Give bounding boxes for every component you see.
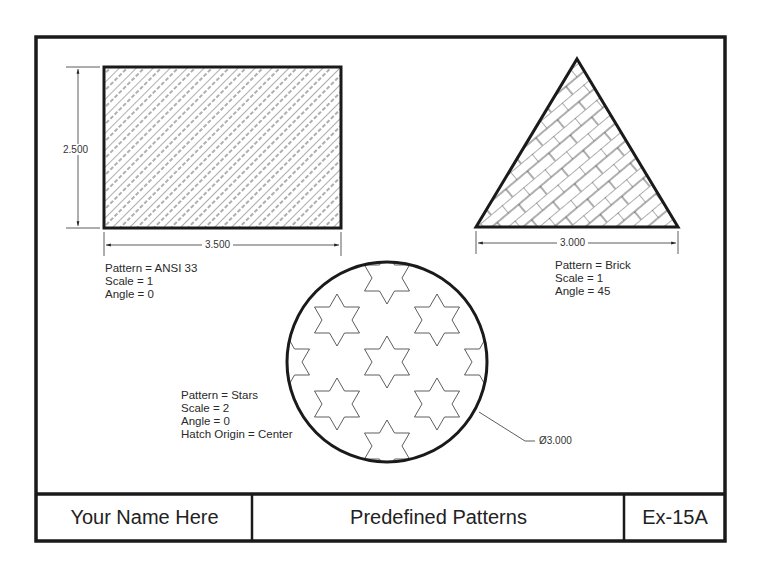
hatched-circle	[287, 262, 487, 462]
triangle-scale: Scale = 1	[555, 272, 631, 285]
diameter-leader	[479, 412, 535, 441]
circle-angle: Angle = 0	[181, 415, 293, 428]
triangle-pattern-label: Pattern = Brick Scale = 1 Angle = 45	[555, 259, 631, 298]
rectangle-scale: Scale = 1	[105, 275, 197, 288]
dimension-base-text: 3.000	[557, 237, 588, 248]
circle-scale: Scale = 2	[181, 402, 293, 415]
title-block-name: Your Name Here	[38, 495, 251, 540]
circle-hatch-origin: Hatch Origin = Center	[181, 428, 293, 441]
rectangle-pattern-label: Pattern = ANSI 33 Scale = 1 Angle = 0	[105, 262, 197, 301]
dimension-width-text: 3.500	[202, 239, 233, 250]
triangle-angle: Angle = 45	[555, 285, 631, 298]
hatched-rectangle	[104, 67, 341, 228]
dimension-height-text: 2.500	[60, 144, 91, 155]
triangle-pattern: Pattern = Brick	[555, 259, 631, 272]
title-block-sheet: Ex-15A	[626, 495, 724, 540]
circle-pattern: Pattern = Stars	[181, 389, 293, 402]
circle-pattern-label: Pattern = Stars Scale = 2 Angle = 0 Hatc…	[181, 389, 293, 441]
rectangle-angle: Angle = 0	[105, 288, 197, 301]
title-block-title: Predefined Patterns	[254, 495, 623, 540]
hatched-triangle	[476, 59, 678, 227]
dimension-diameter-text: Ø3.000	[536, 435, 575, 446]
rectangle-pattern: Pattern = ANSI 33	[105, 262, 197, 275]
